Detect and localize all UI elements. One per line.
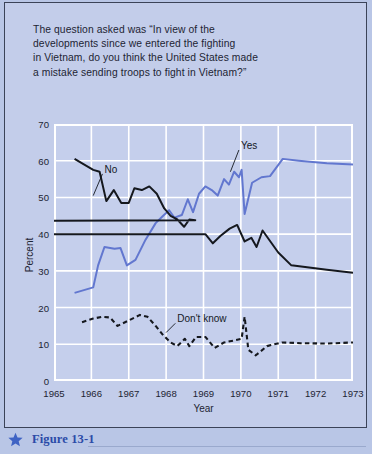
question-line-4: a mistake sending troops to fight in Vie… <box>33 66 343 80</box>
x-tick-1971: 1971 <box>268 388 289 399</box>
x-tick-1968: 1968 <box>155 388 176 399</box>
figure-caption: Figure 13-1 <box>8 432 95 447</box>
plot-canvas <box>54 124 353 381</box>
question-text-block: The question asked was “In view of the d… <box>33 23 343 80</box>
question-line-1: The question asked was “In view of the <box>33 23 343 37</box>
y-tick-10: 10 <box>38 339 49 350</box>
y-axis-title: Percent <box>24 237 35 271</box>
annotation-leader-line <box>93 174 102 196</box>
x-tick-1970: 1970 <box>230 388 251 399</box>
x-tick-1965: 1965 <box>43 388 64 399</box>
x-tick-1969: 1969 <box>193 388 214 399</box>
y-tick-20: 20 <box>38 302 49 313</box>
question-line-3: in Vietnam, do you think the United Stat… <box>33 51 343 65</box>
caption-divider <box>88 446 366 447</box>
x-tick-1972: 1972 <box>305 388 326 399</box>
y-tick-50: 50 <box>38 192 49 203</box>
star-icon <box>8 432 23 447</box>
figure-caption-label: Figure 13-1 <box>32 432 95 447</box>
line-chart: 010203040506070 196519661967196819691970… <box>54 124 353 385</box>
y-tick-70: 70 <box>38 119 49 130</box>
annotation-no: No <box>104 164 117 175</box>
y-tick-30: 30 <box>38 265 49 276</box>
series-line-yes <box>75 159 353 293</box>
x-tick-1966: 1966 <box>81 388 102 399</box>
annotation-leader-line <box>166 323 175 332</box>
x-axis-title: Year <box>193 403 213 414</box>
y-tick-40: 40 <box>38 229 49 240</box>
x-tick-1967: 1967 <box>118 388 139 399</box>
annotation-yes: Yes <box>241 140 257 151</box>
figure-panel: The question asked was “In view of the d… <box>4 2 367 428</box>
y-tick-0: 0 <box>44 376 49 387</box>
x-tick-1973: 1973 <box>342 388 363 399</box>
y-tick-60: 60 <box>38 155 49 166</box>
question-line-2: developments since we entered the fighti… <box>33 37 343 51</box>
annotation-don-t-know: Don't know <box>177 313 226 324</box>
